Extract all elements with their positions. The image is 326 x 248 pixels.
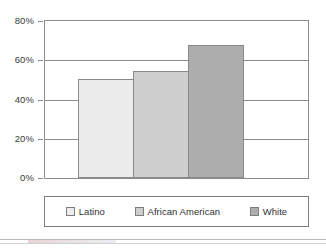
legend-label-white: White <box>263 207 288 217</box>
bars-layer <box>45 21 308 178</box>
y-tick-mark-40 <box>38 100 43 101</box>
legend-swatch-icon-white <box>250 207 259 216</box>
y-tick-mark-0 <box>38 178 43 179</box>
y-tick-label-60: 60% <box>0 55 34 65</box>
bar-white[interactable] <box>188 45 244 178</box>
bar-latino[interactable] <box>78 79 134 178</box>
y-tick-label-80: 80% <box>0 16 34 26</box>
legend-label-latino: Latino <box>79 207 105 217</box>
legend-item-white[interactable]: White <box>250 207 288 217</box>
legend: Latino African American White <box>44 196 309 227</box>
y-tick-mark-60 <box>38 60 43 61</box>
legend-label-african-american: African American <box>148 207 221 217</box>
bar-chart-figure: 80% 60% 40% 20% 0% Latino African Americ… <box>0 0 326 248</box>
y-tick-label-0: 0% <box>0 173 34 183</box>
scan-artifact-line-lower <box>0 243 326 244</box>
y-tick-mark-20 <box>38 139 43 140</box>
y-tick-mark-80 <box>38 21 43 22</box>
plot-area <box>44 20 309 179</box>
legend-swatch-icon-latino <box>66 207 75 216</box>
y-tick-label-20: 20% <box>0 134 34 144</box>
y-axis: 80% 60% 40% 20% 0% <box>0 12 40 187</box>
bar-african-american[interactable] <box>133 71 189 178</box>
y-tick-label-40: 40% <box>0 95 34 105</box>
legend-item-latino[interactable]: Latino <box>66 207 105 217</box>
legend-swatch-icon-african-american <box>135 207 144 216</box>
legend-item-african-american[interactable]: African American <box>135 207 221 217</box>
